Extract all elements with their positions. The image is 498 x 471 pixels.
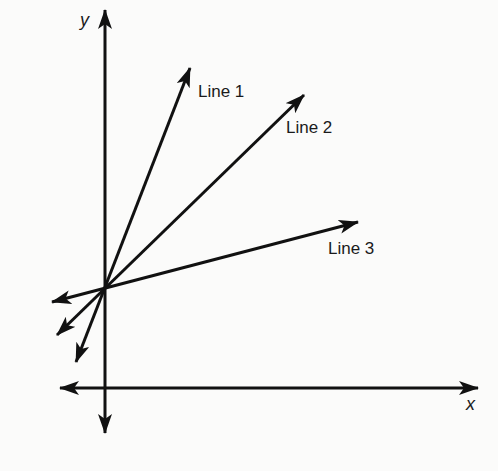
y-axis-label: y bbox=[80, 10, 89, 31]
line-3-label: Line 3 bbox=[328, 239, 374, 259]
line-2-label: Line 2 bbox=[286, 118, 332, 138]
line-3 bbox=[52, 222, 358, 302]
x-axis-label: x bbox=[466, 394, 475, 415]
diagram-svg bbox=[0, 0, 498, 471]
line-1 bbox=[76, 68, 190, 362]
line-2 bbox=[57, 95, 304, 335]
diagram-canvas: y x Line 1 Line 2 Line 3 bbox=[0, 0, 498, 471]
line-1-label: Line 1 bbox=[198, 82, 244, 102]
